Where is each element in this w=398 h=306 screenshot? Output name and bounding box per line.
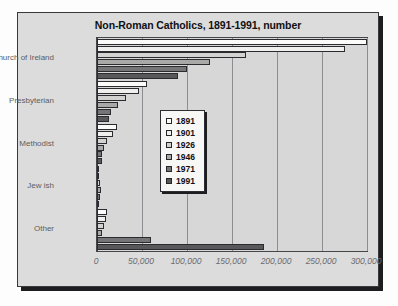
category-label-church-of-ireland: Church of Ireland xyxy=(0,53,54,62)
gridline-300000 xyxy=(367,38,368,251)
bar-methodist-1971 xyxy=(97,151,102,157)
legend-item-1991[interactable]: 1991 xyxy=(166,175,195,187)
bar-church-of-ireland-1991 xyxy=(97,73,178,79)
tick-label-300000: 300,000 xyxy=(351,256,382,266)
chart-frame: Non-Roman Catholics, 1891-1991, number C… xyxy=(17,12,379,287)
bar-jew-ish-1891 xyxy=(97,166,99,172)
legend-swatch-icon-1971 xyxy=(166,166,172,172)
bar-presbyterian-1891 xyxy=(97,81,147,87)
legend-label-1991: 1991 xyxy=(176,177,195,186)
legend-swatch-icon-1926 xyxy=(166,142,172,148)
bar-methodist-1926 xyxy=(97,138,107,144)
bar-church-of-ireland-1901 xyxy=(97,46,345,52)
tick-label-150000: 150,000 xyxy=(216,256,247,266)
bar-jew-ish-1991 xyxy=(97,201,99,207)
category-label-jew-ish: Jew ish xyxy=(0,181,54,190)
tick-label-100000: 100,000 xyxy=(171,256,202,266)
tick-label-200000: 200,000 xyxy=(261,256,292,266)
legend-label-1926: 1926 xyxy=(176,141,195,150)
bar-presbyterian-1991 xyxy=(97,116,109,122)
plot-area xyxy=(96,37,368,252)
bar-church-of-ireland-1946 xyxy=(97,59,210,65)
bar-other-1971 xyxy=(97,237,151,243)
bar-jew-ish-1901 xyxy=(97,173,99,179)
bar-other-1891 xyxy=(97,209,107,215)
bar-other-1926 xyxy=(97,223,104,229)
legend-label-1891: 1891 xyxy=(176,117,195,126)
bar-church-of-ireland-1971 xyxy=(97,66,187,72)
legend-label-1901: 1901 xyxy=(176,129,195,138)
legend-item-1971[interactable]: 1971 xyxy=(166,163,195,175)
bar-methodist-1891 xyxy=(97,124,117,130)
bar-other-1901 xyxy=(97,216,106,222)
tick-label-0: 0 xyxy=(94,256,99,266)
page-background: Non-Roman Catholics, 1891-1991, number C… xyxy=(0,0,398,306)
legend-label-1946: 1946 xyxy=(176,153,195,162)
legend-swatch-icon-1946 xyxy=(166,154,172,160)
bar-presbyterian-1971 xyxy=(97,109,111,115)
category-label-methodist: Methodist xyxy=(0,139,54,148)
tick-label-50000: 50,000 xyxy=(128,256,154,266)
category-label-presbyterian: Presbyterian xyxy=(0,96,54,105)
legend-item-1946[interactable]: 1946 xyxy=(166,151,195,163)
bar-church-of-ireland-1926 xyxy=(97,52,246,58)
legend-swatch-icon-1991 xyxy=(166,178,172,184)
legend-swatch-icon-1901 xyxy=(166,130,172,136)
bar-church-of-ireland-1891 xyxy=(97,39,367,45)
bar-jew-ish-1946 xyxy=(97,187,101,193)
legend-swatch-icon-1891 xyxy=(166,118,172,124)
bar-jew-ish-1971 xyxy=(97,194,100,200)
bar-methodist-1901 xyxy=(97,131,113,137)
bar-methodist-1946 xyxy=(97,145,104,151)
chart-legend: 189119011926194619711991 xyxy=(160,110,205,192)
category-label-other: Other xyxy=(0,224,54,233)
bar-presbyterian-1901 xyxy=(97,88,139,94)
bar-other-1946 xyxy=(97,230,102,236)
bar-methodist-1991 xyxy=(97,158,102,164)
bar-presbyterian-1926 xyxy=(97,95,126,101)
bar-series-container xyxy=(97,38,367,251)
legend-item-1926[interactable]: 1926 xyxy=(166,139,195,151)
tick-label-250000: 250,000 xyxy=(306,256,337,266)
legend-item-1891[interactable]: 1891 xyxy=(166,115,195,127)
legend-item-1901[interactable]: 1901 xyxy=(166,127,195,139)
bar-jew-ish-1926 xyxy=(97,180,100,186)
bar-presbyterian-1946 xyxy=(97,102,118,108)
chart-title: Non-Roman Catholics, 1891-1991, number xyxy=(18,19,378,31)
bar-other-1991 xyxy=(97,244,264,250)
legend-label-1971: 1971 xyxy=(176,165,195,174)
